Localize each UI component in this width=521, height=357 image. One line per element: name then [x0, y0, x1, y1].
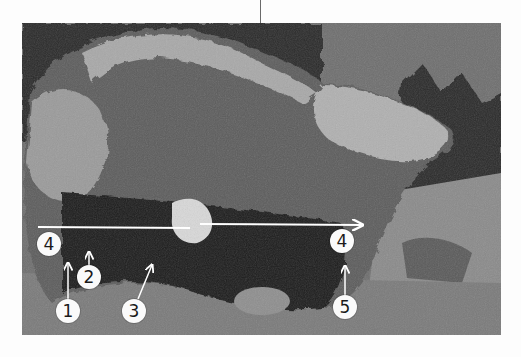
route-marker-2: 2: [77, 265, 101, 289]
route-marker-4-left: 4: [37, 232, 61, 256]
route-marker-1: 1: [56, 299, 80, 323]
route-marker-3: 3: [122, 299, 146, 323]
traverse-arrow-right: [200, 224, 362, 225]
traverse-line-left: [38, 227, 190, 228]
route-marker-4-right: 4: [330, 229, 354, 253]
arrow-3: [138, 265, 152, 299]
route-marker-5: 5: [333, 295, 357, 319]
annotation-lines: [0, 0, 521, 357]
